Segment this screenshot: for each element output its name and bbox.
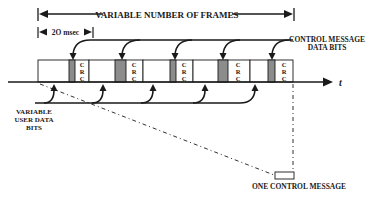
svg-text:C: C [80, 75, 85, 82]
frame-structure-diagram: VARIABLE NUMBER OF FRAMES 2O msec CONTRO… [0, 0, 375, 198]
control-bits-label-line2: DATA BITS [308, 43, 347, 52]
control-bit-3 [170, 60, 176, 82]
svg-text:R: R [282, 68, 287, 75]
control-bit-arrowheads [70, 53, 276, 60]
control-bit-5 [268, 60, 275, 82]
svg-text:C: C [236, 75, 241, 82]
span-label: VARIABLE NUMBER OF FRAMES [95, 10, 238, 20]
control-bits-feed [73, 40, 293, 55]
svg-text:C: C [132, 75, 137, 82]
svg-text:R: R [80, 68, 85, 75]
user-bits-feed [35, 90, 255, 103]
one-control-message-label: ONE CONTROL MESSAGE [252, 182, 346, 191]
svg-text:C: C [182, 75, 187, 82]
user-bit-arrowheads [51, 84, 259, 91]
svg-text:C: C [282, 61, 287, 68]
user-bits-label-line1: VARIABLE [16, 108, 52, 116]
svg-text:R: R [132, 68, 137, 75]
projection-lines [40, 84, 293, 175]
svg-text:C: C [236, 61, 241, 68]
user-bits-label-line3: BITS [26, 124, 42, 132]
svg-text:C: C [282, 75, 287, 82]
svg-text:R: R [182, 68, 187, 75]
user-bits-label-line2: USER DATA [14, 116, 53, 124]
svg-text:C: C [182, 61, 187, 68]
frame-duration-label: 2O msec [52, 28, 80, 37]
one-control-message-box [275, 172, 294, 179]
frames-row [38, 60, 293, 82]
svg-text:C: C [132, 61, 137, 68]
control-bit-4 [218, 60, 228, 82]
svg-text:R: R [236, 68, 241, 75]
svg-text:C: C [80, 61, 85, 68]
time-axis-label: t [339, 77, 343, 88]
control-bit-2 [115, 60, 126, 82]
control-bit-1 [69, 60, 75, 82]
